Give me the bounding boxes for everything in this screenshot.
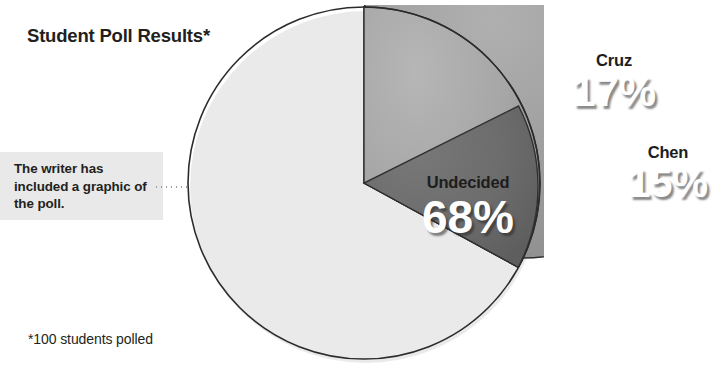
pie-label-cruz-name: Cruz xyxy=(558,51,670,69)
pie-label-cruz-value: 17% xyxy=(558,71,670,113)
pie-label-chen: Chen 15% xyxy=(616,143,716,203)
pie-label-chen-value: 15% xyxy=(616,163,716,203)
pie-label-undecided-value: 68% xyxy=(386,194,550,240)
footnote-text: *100 students polled xyxy=(28,331,153,347)
annotation-text: The writer has included a graphic of the… xyxy=(14,160,159,213)
dotted-leader-icon xyxy=(154,186,190,188)
pie-label-chen-name: Chen xyxy=(616,143,716,161)
pie-label-undecided: Undecided 68% xyxy=(386,173,550,240)
pie-label-cruz: Cruz 17% xyxy=(558,51,670,113)
pie-chart: Cruz 17% Chen 15% Undecided 68% xyxy=(186,5,544,365)
annotation-callout: The writer has included a graphic of the… xyxy=(0,152,163,220)
page-title: Student Poll Results* xyxy=(27,25,210,47)
pie-label-undecided-name: Undecided xyxy=(386,173,550,191)
